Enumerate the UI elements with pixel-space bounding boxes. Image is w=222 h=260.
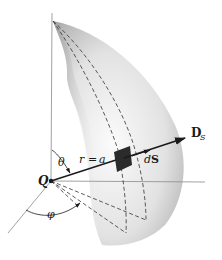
charge-point [49,179,53,183]
charge-label: Q [38,174,49,188]
d-s-label: D S [191,126,206,142]
svg-text:a: a [99,153,106,166]
x-axis [8,181,51,233]
z-axis [51,13,52,181]
radius-label: r = a [79,153,106,166]
ds-label: d S [144,153,159,166]
phi-label: φ [47,208,55,221]
svg-text:r: r [79,153,85,166]
surface-diagram: Q θ φ r = a d S D S [0,0,222,260]
spherical-surface [53,21,184,246]
svg-text:d: d [144,153,151,166]
svg-text:S: S [200,133,206,142]
svg-text:S: S [151,153,159,166]
svg-text:=: = [88,153,97,166]
theta-label: θ [58,156,65,169]
